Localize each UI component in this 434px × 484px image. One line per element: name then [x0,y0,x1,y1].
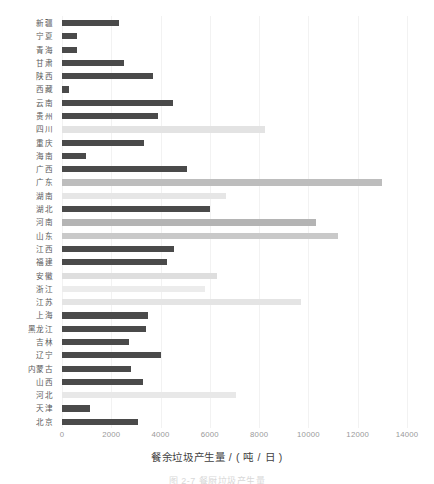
bar[interactable] [62,113,158,119]
x-tick-label: 8000 [250,430,268,439]
bar[interactable] [62,392,236,398]
plot-area [62,16,407,428]
bar[interactable] [62,405,90,411]
bar[interactable] [62,219,316,225]
gridline [407,16,408,428]
bar[interactable] [62,153,86,159]
bar[interactable] [62,339,129,345]
bar[interactable] [62,352,161,358]
bar[interactable] [62,33,77,39]
x-tick-label: 2000 [102,430,120,439]
x-tick-label: 0 [60,430,65,439]
bar[interactable] [62,366,131,372]
figure-caption: 图 2-7 餐厨垃圾产生量 [0,474,434,484]
bar[interactable] [62,179,382,185]
bar[interactable] [62,206,210,212]
bar-chart-figure: 新疆宁夏青海甘肃陕西西藏云南贵州四川重庆海南广西广东湖南湖北河南山东江西福建安徽… [0,0,434,484]
x-tick-label: 4000 [151,430,169,439]
bar-row[interactable] [62,415,407,432]
x-tick-label: 14000 [396,430,419,439]
bar[interactable] [62,193,226,199]
x-tick-label: 6000 [201,430,219,439]
bar[interactable] [62,233,338,239]
bar[interactable] [62,60,124,66]
value-axis-ticks: 02000400060008000100001200014000 [62,430,407,444]
bar[interactable] [62,47,77,53]
x-tick-label: 10000 [297,430,320,439]
bar[interactable] [62,299,301,305]
bar[interactable] [62,166,187,172]
bar[interactable] [62,273,217,279]
bar[interactable] [62,379,143,385]
bar[interactable] [62,73,153,79]
bar[interactable] [62,86,69,92]
bar[interactable] [62,246,174,252]
bar[interactable] [62,286,205,292]
category-label: 北京 [0,415,58,432]
bar[interactable] [62,312,148,318]
category-axis-labels: 新疆宁夏青海甘肃陕西西藏云南贵州四川重庆海南广西广东湖南湖北河南山东江西福建安徽… [0,16,58,428]
bar[interactable] [62,326,146,332]
bar[interactable] [62,419,138,425]
bar[interactable] [62,140,144,146]
x-axis-title: 餐余垃圾产生量 / ( 吨 / 日 ) [0,449,434,464]
bar[interactable] [62,126,265,132]
bar[interactable] [62,20,119,26]
bar[interactable] [62,100,173,106]
x-tick-label: 12000 [346,430,369,439]
bar[interactable] [62,259,167,265]
